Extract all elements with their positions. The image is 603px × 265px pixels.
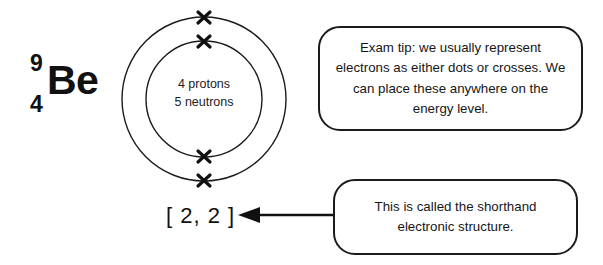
shorthand-callout-arrow [238, 204, 338, 226]
shorthand-explanation-callout: This is called the shorthand electronic … [333, 179, 578, 255]
isotope-mass-number: 9 [30, 52, 43, 75]
nucleus-protons-label: 4 protons [113, 75, 295, 93]
isotope-element-symbol: Be [47, 60, 98, 101]
nucleus-composition: 4 protons 5 neutrons [113, 75, 295, 111]
exam-tip-callout-text: Exam tip: we usually represent electrons… [320, 38, 581, 119]
shorthand-electronic-structure-notation: [ 2, 2 ] [166, 203, 235, 229]
arrow-svg [238, 204, 338, 226]
isotope-atomic-number: 4 [30, 93, 43, 116]
shorthand-explanation-callout-text: This is called the shorthand electronic … [335, 197, 576, 237]
exam-tip-callout: Exam tip: we usually represent electrons… [318, 26, 583, 131]
nucleus-neutrons-label: 5 neutrons [113, 93, 295, 111]
arrow-head-icon [238, 207, 260, 223]
atom-diagram: 4 protons 5 neutrons [113, 2, 295, 198]
diagram-canvas: 9 4 Be [0, 0, 603, 265]
